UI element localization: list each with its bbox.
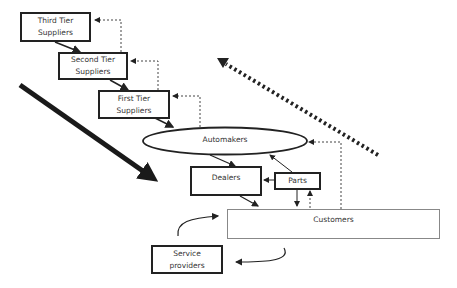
customers-label: Customers (313, 214, 353, 226)
customers-box: Customers (227, 209, 440, 239)
automakers-label: Automakers (185, 135, 265, 144)
service-providers-label: Service providers (162, 248, 212, 272)
third-tier-label: Third Tier Suppliers (31, 15, 81, 39)
first-tier-label: First Tier Suppliers (112, 93, 157, 117)
parts-box: Parts (274, 172, 321, 190)
second-tier-label: Second Tier Suppliers (66, 54, 121, 78)
first-tier-suppliers-box: First Tier Suppliers (98, 90, 170, 119)
service-providers-box: Service providers (151, 245, 223, 274)
connectors-layer (0, 0, 457, 288)
third-tier-suppliers-box: Third Tier Suppliers (20, 12, 91, 42)
dealers-label: Dealers (212, 172, 241, 184)
dealers-box: Dealers (190, 166, 262, 196)
second-tier-suppliers-box: Second Tier Suppliers (58, 52, 128, 80)
parts-label: Parts (288, 175, 307, 187)
